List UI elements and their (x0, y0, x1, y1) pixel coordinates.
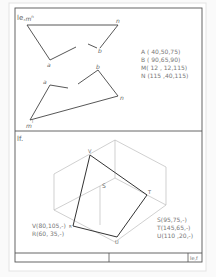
bottom-panel-title: lf. (17, 135, 23, 143)
label-n-top: n (116, 17, 120, 24)
label-m-front-sup: l (32, 119, 33, 124)
bottom-coords-left: V(80,105,-) R(60, 35,-) (32, 222, 66, 237)
label-u: U (115, 239, 119, 245)
svg-text:V(80,105,-): V(80,105,-) (32, 222, 66, 229)
label-n-front: n (120, 94, 124, 101)
label-b-front: b (96, 63, 100, 70)
diagram-sheet: le,mn n b a a b n m l A ( 40,50,75) B ( … (0, 0, 216, 277)
svg-text:A ( 40,50,75): A ( 40,50,75) (141, 48, 180, 55)
label-b-top: b (98, 47, 102, 54)
title-strip-label: le,f (190, 255, 198, 261)
label-s: S (102, 182, 106, 189)
svg-text:U(110 ,20,-): U(110 ,20,-) (157, 232, 193, 239)
svg-text:B ( 90,65,90): B ( 90,65,90) (141, 56, 180, 63)
svg-text:R(60, 35,-): R(60, 35,-) (32, 230, 64, 237)
label-a-front: a (43, 78, 47, 85)
svg-text:S(95,75,-): S(95,75,-) (157, 216, 187, 223)
label-r: R (69, 224, 72, 229)
label-a-top: a (47, 61, 51, 68)
svg-text:T(145,65,-): T(145,65,-) (156, 224, 190, 231)
label-v: V (88, 148, 92, 154)
svg-text:M( 12 , 12,115): M( 12 , 12,115) (141, 64, 187, 71)
svg-text:N (115 ,40,115): N (115 ,40,115) (141, 72, 188, 79)
